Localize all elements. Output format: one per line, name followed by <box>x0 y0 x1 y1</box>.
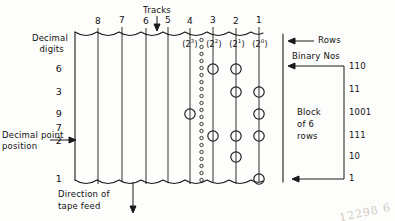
binary-value-row-4: 111 <box>349 131 366 141</box>
binary-value-row-1: 110 <box>349 62 366 72</box>
block-label-line3: rows <box>297 132 318 142</box>
track-power-label-3: (22) <box>206 38 222 50</box>
power-base-3: (2 <box>206 40 215 49</box>
track-power-label-1: (20) <box>252 38 268 50</box>
track-power-label-4: (23) <box>182 38 198 50</box>
track-number-7: 7 <box>119 15 125 25</box>
decimal-digit-row-3: 9 <box>56 109 62 120</box>
sprocket-hole-column <box>200 38 203 181</box>
tape-feed-arrow <box>130 182 136 213</box>
track-number-4: 4 <box>187 16 193 26</box>
binary-value-row-3: 1001 <box>349 108 371 118</box>
block-label-line2: of 6 <box>297 120 314 130</box>
tape-feed-label-line1: Direction of <box>58 190 110 200</box>
power-base-1: (2 <box>252 40 261 49</box>
track-number-1: 1 <box>256 15 262 25</box>
rows-label: Rows <box>318 36 341 46</box>
track-power-label-2: (21) <box>229 38 245 50</box>
binary-nos-label: Binary Nos <box>292 52 340 62</box>
tape-outline <box>75 32 283 184</box>
power-close-2: ) <box>242 40 245 49</box>
decimal-digits-caption-line2: digits <box>40 45 64 55</box>
tracks-pointer-arrow <box>154 16 160 31</box>
binary-value-row-2: 11 <box>349 85 360 95</box>
power-close-3: ) <box>219 40 222 49</box>
track-number-8: 8 <box>95 16 101 26</box>
decimal-digit-row-6: 1 <box>56 174 62 185</box>
decimal-digits-caption-line1: Decimal <box>32 34 68 44</box>
decimal-digit-row-1: 6 <box>56 64 62 75</box>
decimal-digit-row-2: 3 <box>56 87 62 98</box>
track-number-6: 6 <box>143 16 149 26</box>
power-close-4: ) <box>195 40 198 49</box>
punched-tape-diagram: Tracks 8 7 6 5 4 3 2 1 (23) (22) (21) (2… <box>0 0 395 221</box>
block-bracket <box>336 66 344 179</box>
track-number-5: 5 <box>165 15 171 25</box>
tape-feed-label-line2: tape feed <box>58 202 101 212</box>
block-end-arrow <box>292 176 336 182</box>
decimal-point-label-line2: position <box>2 142 37 152</box>
power-base-4: (2 <box>182 40 191 49</box>
block-label-line1: Block <box>297 108 321 118</box>
rows-arrow <box>288 38 314 44</box>
power-base-2: (2 <box>229 40 238 49</box>
track-number-2: 2 <box>233 16 239 26</box>
decimal-point-label-line1: Decimal point <box>2 131 64 141</box>
track-number-3: 3 <box>210 15 216 25</box>
binary-value-row-6: 1 <box>349 174 355 184</box>
binary-nos-arrow <box>288 63 336 69</box>
data-holes <box>185 64 264 184</box>
power-close-1: ) <box>265 40 268 49</box>
binary-value-row-5: 10 <box>349 152 360 162</box>
